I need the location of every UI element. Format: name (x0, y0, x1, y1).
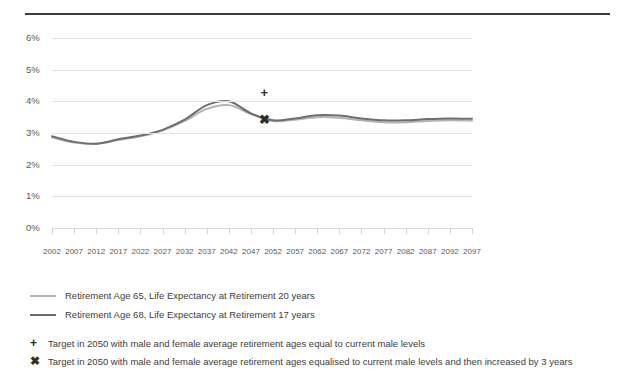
x-axis-tick (96, 228, 97, 234)
x-axis-label: 2087 (419, 247, 437, 257)
x-axis-tick (229, 228, 230, 234)
marker-note-glyph: + (30, 337, 48, 350)
x-axis-tick (273, 228, 274, 234)
y-axis-label: 3% (26, 128, 50, 138)
legend-item-1[interactable]: Retirement Age 65, Life Expectancy at Re… (30, 286, 590, 305)
x-axis-tick (428, 228, 429, 234)
x-axis-tick (140, 228, 141, 234)
y-axis-label: 5% (26, 65, 50, 75)
x-axis-tick (295, 228, 296, 234)
x-axis-tick (317, 228, 318, 234)
x-axis-tick (185, 228, 186, 234)
x-axis-tick (207, 228, 208, 234)
chart-legend: Retirement Age 65, Life Expectancy at Re… (30, 286, 590, 324)
x-axis-tick (52, 228, 53, 234)
x-axis-label: 2077 (375, 247, 393, 257)
x-axis-labels: 2002200720122017202220272032203720422047… (0, 247, 621, 261)
y-axis-label: 6% (26, 33, 50, 43)
x-axis-label: 2027 (154, 247, 172, 257)
x-axis-label: 2062 (308, 247, 326, 257)
gridline-1% (52, 196, 472, 197)
y-axis-label: 2% (26, 160, 50, 170)
legend-line-swatch (30, 314, 56, 316)
x-axis-tick (472, 228, 473, 234)
x-axis-tick (450, 228, 451, 234)
x-axis-tick (384, 228, 385, 234)
y-axis-label: 4% (26, 96, 50, 106)
legend-line-swatch (30, 295, 56, 297)
x-axis-label: 2032 (176, 247, 194, 257)
x-axis-tick (361, 228, 362, 234)
x-axis-tick (251, 228, 252, 234)
marker-annotations: +Target in 2050 with male and female ave… (30, 337, 595, 373)
x-axis-label: 2022 (132, 247, 150, 257)
plot-area (52, 38, 472, 228)
marker-note-text: Target in 2050 with male and female aver… (48, 337, 425, 350)
gridline-4% (52, 101, 472, 102)
x-axis-tick (163, 228, 164, 234)
x-axis-label: 2057 (286, 247, 304, 257)
gridline-5% (52, 70, 472, 71)
x-axis-label: 2012 (87, 247, 105, 257)
x-axis-label: 2007 (65, 247, 83, 257)
gridline-2% (52, 165, 472, 166)
x-axis-tick (74, 228, 75, 234)
x-axis-tick (118, 228, 119, 234)
chart-marker-1: + (260, 85, 268, 98)
marker-note-text: Target in 2050 with male and female aver… (48, 355, 572, 368)
chart-marker-2: ✖ (259, 112, 270, 125)
x-axis-label: 2017 (109, 247, 127, 257)
marker-note-glyph: ✖ (30, 355, 48, 368)
x-axis-label: 2052 (264, 247, 282, 257)
x-axis-label: 2047 (242, 247, 260, 257)
chart-container: 2002200720122017202220272032203720422047… (0, 0, 621, 280)
x-axis-label: 2067 (330, 247, 348, 257)
y-axis-label: 0% (26, 223, 50, 233)
marker-note-1: +Target in 2050 with male and female ave… (30, 337, 595, 350)
x-axis-label: 2082 (397, 247, 415, 257)
x-axis-ticks (52, 228, 472, 234)
legend-label: Retirement Age 65, Life Expectancy at Re… (65, 290, 315, 302)
x-axis-label: 2092 (441, 247, 459, 257)
x-axis-label: 2072 (353, 247, 371, 257)
gridline-3% (52, 133, 472, 134)
marker-note-2: ✖Target in 2050 with male and female ave… (30, 355, 595, 368)
x-axis-label: 2037 (198, 247, 216, 257)
legend-label: Retirement Age 68, Life Expectancy at Re… (65, 309, 315, 321)
x-axis-tick (339, 228, 340, 234)
x-axis-label: 2097 (463, 247, 481, 257)
x-axis-label: 2002 (43, 247, 61, 257)
y-axis-label: 1% (26, 191, 50, 201)
x-axis-tick (406, 228, 407, 234)
legend-item-2[interactable]: Retirement Age 68, Life Expectancy at Re… (30, 305, 590, 324)
gridline-6% (52, 38, 472, 39)
x-axis-label: 2042 (220, 247, 238, 257)
